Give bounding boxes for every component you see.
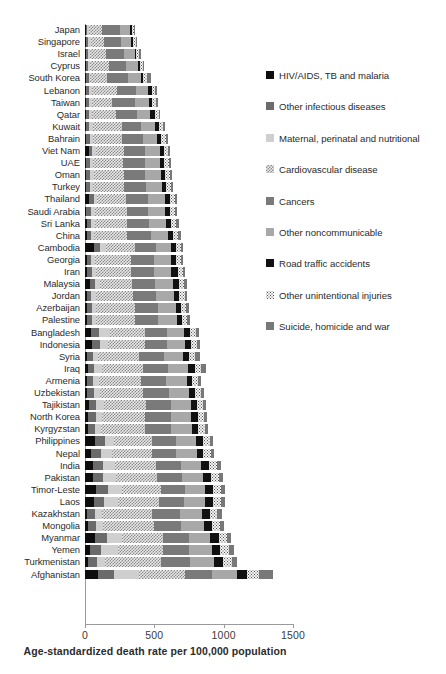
bar-category-label: Afghanistan [0, 569, 80, 581]
bar-segment [163, 545, 190, 555]
bar-segment [210, 533, 218, 543]
bar-segment [85, 340, 92, 350]
bar-segment [221, 497, 225, 507]
bar-segment [155, 279, 173, 289]
bar-segment [124, 170, 145, 180]
bar-category-label: Laos [0, 496, 80, 508]
stacked-bar[interactable] [85, 497, 225, 507]
stacked-bar[interactable] [85, 291, 187, 301]
table-row: Pakistan [0, 472, 446, 484]
stacked-bar[interactable] [85, 340, 200, 350]
stacked-bar[interactable] [85, 328, 199, 338]
bar-segment [149, 219, 166, 229]
stacked-bar[interactable] [85, 86, 157, 96]
stacked-bar[interactable] [85, 461, 221, 471]
bar-segment [108, 485, 122, 495]
stacked-bar[interactable] [85, 110, 161, 120]
bar-segment [145, 146, 159, 156]
legend-item[interactable]: Other noncommunicable [266, 227, 444, 238]
legend-item[interactable]: Road traffic accidents [266, 258, 444, 269]
stacked-bar[interactable] [85, 61, 144, 71]
stacked-bar[interactable] [85, 364, 206, 374]
table-row: Japan [0, 24, 446, 36]
stacked-bar[interactable] [85, 533, 231, 543]
stacked-bar[interactable] [85, 436, 213, 446]
stacked-bar[interactable] [85, 412, 208, 422]
stacked-bar[interactable] [85, 509, 222, 519]
chart-legend: HIV/AIDS, TB and malariaOther infectious… [266, 70, 444, 353]
bar-segment [158, 303, 176, 313]
stacked-bar[interactable] [85, 182, 173, 192]
bar-segment [198, 424, 205, 434]
stacked-bar[interactable] [85, 73, 151, 83]
table-row: Kazakhstan [0, 508, 446, 520]
bar-segment [104, 37, 121, 47]
bar-segment [212, 521, 220, 531]
bar-segment [92, 86, 117, 96]
bar-segment [211, 473, 219, 483]
bar-segment [85, 461, 93, 471]
bar-segment [93, 461, 103, 471]
bar-segment [102, 509, 153, 519]
bar-segment [135, 243, 156, 253]
stacked-bar[interactable] [85, 231, 181, 241]
stacked-bar[interactable] [85, 219, 179, 229]
stacked-bar[interactable] [85, 485, 225, 495]
bar-category-label: UAE [0, 157, 80, 169]
stacked-bar[interactable] [85, 194, 177, 204]
bar-segment [220, 521, 224, 531]
stacked-bar[interactable] [85, 570, 273, 580]
bar-segment [171, 182, 173, 192]
bar-segment [141, 376, 166, 386]
stacked-bar[interactable] [85, 376, 201, 386]
bar-category-label: Kuwait [0, 121, 80, 133]
bar-segment [183, 267, 185, 277]
bar-segment [104, 497, 117, 507]
stacked-bar[interactable] [85, 473, 223, 483]
stacked-bar[interactable] [85, 545, 234, 555]
legend-item[interactable]: Cancers [266, 196, 444, 207]
stacked-bar[interactable] [85, 122, 165, 132]
bar-segment [96, 412, 103, 422]
bar-segment [88, 424, 95, 434]
stacked-bar[interactable] [85, 557, 237, 567]
stacked-bar[interactable] [85, 134, 168, 144]
stacked-bar[interactable] [85, 279, 187, 289]
stacked-bar[interactable] [85, 25, 135, 35]
bar-segment [147, 73, 151, 83]
stacked-bar[interactable] [85, 170, 172, 180]
bar-segment [143, 61, 144, 71]
stacked-bar[interactable] [85, 158, 171, 168]
stacked-bar[interactable] [85, 521, 224, 531]
stacked-bar[interactable] [85, 267, 185, 277]
legend-item[interactable]: Other infectious diseases [266, 101, 444, 112]
legend-item[interactable]: Cardiovascular disease [266, 164, 444, 175]
stacked-bar[interactable] [85, 49, 141, 59]
bar-segment [229, 545, 233, 555]
stacked-bar[interactable] [85, 243, 183, 253]
stacked-bar[interactable] [85, 98, 158, 108]
legend-item[interactable]: Maternal, perinatal and nutritional [266, 133, 444, 144]
bar-segment [88, 412, 95, 422]
stacked-bar[interactable] [85, 255, 183, 265]
stacked-bar[interactable] [85, 303, 189, 313]
stacked-bar[interactable] [85, 388, 205, 398]
bar-segment [85, 473, 93, 483]
stacked-bar[interactable] [85, 315, 190, 325]
bar-segment [181, 243, 183, 253]
legend-item[interactable]: Other unintentional injuries [266, 290, 444, 301]
stacked-bar[interactable] [85, 449, 214, 459]
legend-item[interactable]: HIV/AIDS, TB and malaria [266, 70, 444, 81]
stacked-bar[interactable] [85, 146, 170, 156]
stacked-bar[interactable] [85, 352, 200, 362]
legend-item[interactable]: Suicide, homicide and war [266, 321, 444, 332]
bar-segment [237, 570, 247, 580]
bar-segment [95, 533, 107, 543]
stacked-bar[interactable] [85, 400, 206, 410]
stacked-bar[interactable] [85, 424, 208, 434]
bar-segment [97, 194, 126, 204]
stacked-bar[interactable] [85, 207, 177, 217]
table-row: Timor-Leste [0, 484, 446, 496]
stacked-bar[interactable] [85, 37, 137, 47]
bar-segment [159, 110, 161, 120]
